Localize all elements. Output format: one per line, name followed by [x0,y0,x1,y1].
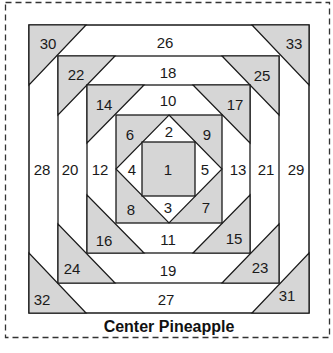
diagram-title: Center Pineapple [104,318,235,335]
label-20: 20 [62,161,79,178]
label-12: 12 [92,161,109,178]
label-25: 25 [254,67,271,84]
label-13: 13 [230,161,247,178]
label-30: 30 [40,35,57,52]
label-29: 29 [288,161,305,178]
label-28: 28 [34,161,51,178]
label-8: 8 [127,201,135,218]
label-18: 18 [160,64,177,81]
label-31: 31 [279,287,296,304]
label-17: 17 [227,96,244,113]
label-15: 15 [226,230,243,247]
label-3: 3 [164,199,172,216]
label-5: 5 [201,161,209,178]
label-1: 1 [164,161,172,178]
center-pineapple-diagram: 1 2 3 4 5 6 7 8 9 10 11 12 13 14 15 16 1… [0,0,333,353]
label-4: 4 [128,161,136,178]
label-32: 32 [34,291,51,308]
label-6: 6 [126,126,134,143]
piece-labels: 1 2 3 4 5 6 7 8 9 10 11 12 13 14 15 16 1… [34,34,305,308]
label-16: 16 [96,232,113,249]
label-19: 19 [160,262,177,279]
label-9: 9 [203,126,211,143]
label-21: 21 [258,161,275,178]
label-24: 24 [64,260,81,277]
label-27: 27 [158,291,175,308]
label-14: 14 [96,96,113,113]
label-7: 7 [202,199,210,216]
label-26: 26 [157,34,174,51]
label-11: 11 [160,231,176,248]
label-33: 33 [286,35,303,52]
label-2: 2 [165,123,173,140]
label-23: 23 [252,259,269,276]
label-22: 22 [68,66,85,83]
label-10: 10 [160,92,177,109]
